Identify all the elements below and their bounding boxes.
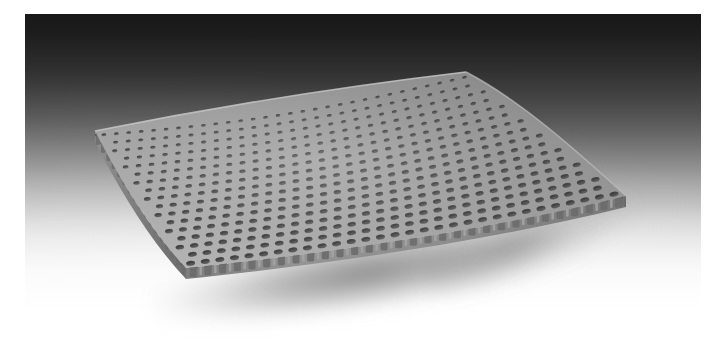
photograph-canvas bbox=[0, 0, 706, 354]
studio-backdrop bbox=[25, 14, 701, 354]
